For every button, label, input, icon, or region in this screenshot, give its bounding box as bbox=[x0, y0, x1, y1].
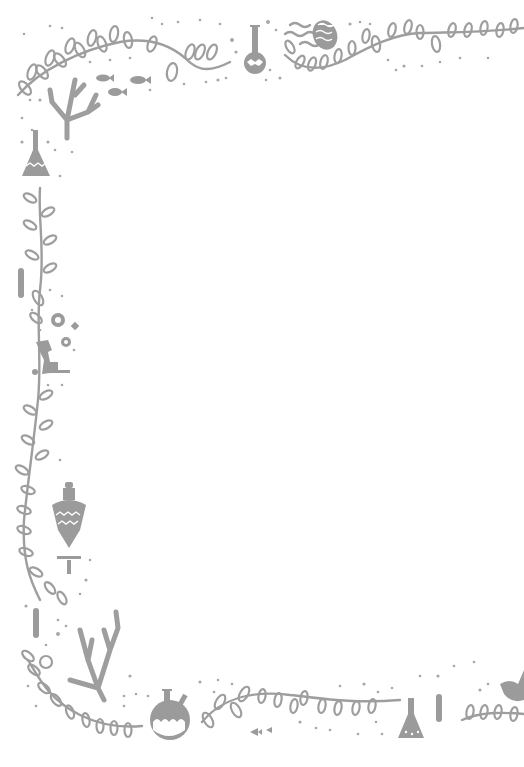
test-tube-icon-bottom bbox=[436, 694, 442, 722]
coral-icon-bottom bbox=[70, 612, 118, 700]
test-tube-icon-lower bbox=[33, 608, 39, 638]
potion-bottle-icon bbox=[52, 482, 86, 574]
gear-icon bbox=[51, 313, 79, 347]
bird-icon bbox=[500, 670, 524, 701]
fish-icon bbox=[96, 74, 151, 96]
vine-bottom-right bbox=[462, 704, 524, 721]
coral-icon bbox=[50, 80, 98, 138]
round-flask-icon bbox=[244, 25, 266, 74]
decorative-frame bbox=[0, 0, 524, 767]
vine-top-left bbox=[17, 25, 230, 96]
fish-icon-bottom bbox=[250, 727, 272, 736]
erlenmeyer-flask-icon bbox=[22, 130, 50, 176]
test-tube-icon bbox=[18, 268, 24, 298]
patterned-egg-icon bbox=[309, 17, 342, 53]
vine-left bbox=[14, 188, 68, 606]
scattered-dots bbox=[20, 17, 489, 736]
erlenmeyer-flask-icon-bottom bbox=[398, 698, 424, 738]
vine-bottom-left bbox=[20, 649, 142, 737]
two-neck-flask-icon bbox=[150, 689, 190, 740]
border-illustration bbox=[0, 0, 524, 767]
